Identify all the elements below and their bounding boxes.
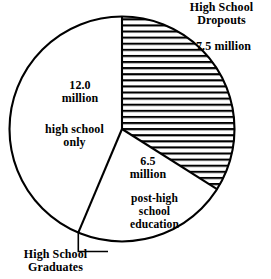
slice-label-high-school-only-line1: high school (45, 122, 104, 136)
slice-label-high-school-only: high school only (28, 123, 121, 150)
slice-value-dropouts: 7.5 million (196, 40, 271, 53)
slice-value-post-high-school-line1: 6.5 (140, 154, 155, 168)
callout-label-high-school-graduates-line1: High School (24, 247, 87, 261)
slice-label-dropouts: High School Dropouts (172, 1, 271, 28)
slice-label-high-school-only-line2: only (63, 135, 85, 149)
slice-label-dropouts-line1: High School (190, 0, 253, 14)
callout-label-high-school-graduates-line2: Graduates (28, 260, 83, 274)
slice-value-post-high-school: 6.5 million (116, 155, 180, 182)
slice-label-post-high-school-line2: school (139, 205, 170, 217)
slice-value-high-school-only-line1: 12.0 (69, 78, 90, 92)
pie-chart: High School Dropouts 7.5 million 12.0 mi… (0, 0, 271, 279)
slice-label-post-high-school-line3: education (130, 218, 179, 230)
callout-label-high-school-graduates: High School Graduates (2, 248, 109, 275)
slice-label-post-high-school-line1: post-high (131, 192, 178, 204)
slice-label-dropouts-line2: Dropouts (197, 13, 246, 27)
slice-label-post-high-school: post-high school education (113, 192, 196, 231)
slice-value-post-high-school-line2: million (130, 167, 167, 181)
slice-value-high-school-only-line2: million (62, 91, 99, 105)
slice-value-high-school-only: 12.0 million (40, 79, 120, 106)
